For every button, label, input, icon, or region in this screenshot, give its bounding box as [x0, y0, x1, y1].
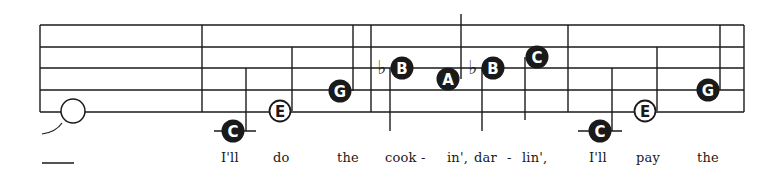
note-head-c: C: [222, 120, 245, 143]
note-head-e: E: [635, 101, 656, 122]
lyric-syllable: do: [273, 150, 290, 165]
lyric-syllable: pay: [636, 150, 660, 165]
note-letter-label: B: [396, 60, 407, 78]
note-head-c: C: [589, 120, 612, 143]
lyric-syllable: I'll: [221, 150, 239, 165]
lyric-syllable: cook -: [385, 150, 426, 165]
lyric-syllable: I'll: [589, 150, 607, 165]
note-head-b: B: [482, 57, 505, 80]
note-head-g: G: [329, 80, 352, 103]
note-head-c: C: [526, 46, 549, 69]
tie-curve: [42, 123, 62, 134]
note-head-whole: [61, 99, 85, 123]
note-letter-label: C: [531, 49, 542, 67]
lyric-syllable: lin',: [522, 150, 547, 165]
note-letter-label: B: [487, 60, 498, 78]
lyric-hyphen: -: [507, 150, 512, 165]
note-letter-label: C: [594, 123, 605, 141]
tie-curve: [42, 123, 62, 134]
note-head-b: B: [391, 57, 414, 80]
note-letter-label: A: [442, 71, 454, 89]
note-head-a: A: [437, 68, 460, 91]
flat-icon: ♭: [469, 56, 478, 78]
note-head-g: G: [697, 79, 720, 102]
note-head-e: E: [270, 101, 291, 122]
lyric-syllable: the: [337, 150, 359, 165]
note-letter-label: E: [640, 103, 650, 121]
note-letter-label: C: [227, 123, 238, 141]
flat-icon: ♭: [378, 56, 387, 78]
note-letter-label: E: [275, 103, 285, 121]
lyric-syllable: in',: [447, 150, 468, 165]
lyric-syllable: the: [697, 150, 719, 165]
note-letter-label: G: [334, 83, 346, 101]
open-note-head: [61, 99, 85, 123]
note-letter-label: G: [702, 82, 714, 100]
lyric-syllable: dar: [474, 150, 497, 165]
